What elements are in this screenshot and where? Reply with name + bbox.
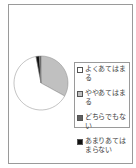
legend-label: ややあてはまる xyxy=(85,89,128,107)
legend-item: ややあてはまる xyxy=(77,89,128,107)
legend-swatch xyxy=(77,115,83,121)
legend-item: よくあてはまる xyxy=(77,65,128,83)
legend-swatch xyxy=(77,67,83,73)
legend-label: どちらでもない xyxy=(85,113,128,131)
pie-chart xyxy=(13,55,69,111)
legend-swatch xyxy=(77,139,83,145)
legend-label: よくあてはまる xyxy=(85,65,128,83)
legend-item: あまりあてはまらない xyxy=(77,137,128,155)
legend-item: どちらでもない xyxy=(77,113,128,131)
legend-swatch xyxy=(77,91,83,97)
legend: よくあてはまる ややあてはまる どちらでもない あまりあてはまらない xyxy=(74,62,130,128)
legend-label: あまりあてはまらない xyxy=(85,137,128,155)
